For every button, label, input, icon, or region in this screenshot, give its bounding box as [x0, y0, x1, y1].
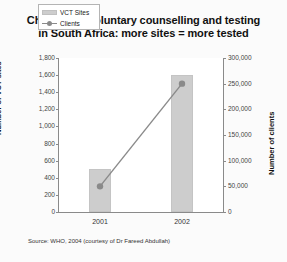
- right-tick-mark: [223, 186, 226, 187]
- left-tick-mark: [56, 144, 59, 145]
- left-tick-label: 1,600: [39, 71, 55, 78]
- bar-2002: [171, 75, 193, 212]
- left-tick-label: 800: [44, 140, 55, 147]
- clients-line-path: [100, 84, 182, 187]
- left-tick-mark: [56, 75, 59, 76]
- left-tick-mark: [56, 58, 59, 59]
- left-tick-label: 1,000: [39, 122, 55, 129]
- right-axis-title: Number of clients: [267, 112, 276, 175]
- legend-item-vct-sites: VCT Sites: [42, 7, 96, 17]
- left-tick-label: 1,200: [39, 105, 55, 112]
- left-tick-label: 600: [44, 157, 55, 164]
- left-tick-label: 200: [44, 191, 55, 198]
- right-tick-mark: [223, 58, 226, 59]
- right-tick-mark: [223, 109, 226, 110]
- left-tick-mark: [56, 109, 59, 110]
- right-tick-mark: [223, 84, 226, 85]
- left-axis-title: Number of VCT sites: [0, 61, 3, 135]
- left-tick-mark: [56, 126, 59, 127]
- chart-figure: Changes in voluntary counselling and tes…: [0, 0, 287, 262]
- line-series: [59, 58, 223, 212]
- right-tick-label: 50,000: [228, 182, 248, 189]
- right-tick-mark: [223, 161, 226, 162]
- line-swatch-icon: [42, 20, 57, 27]
- right-tick-mark: [223, 212, 226, 213]
- plot-area: 02004006008001,0001,2001,4001,6001,800 0…: [58, 58, 224, 213]
- right-tick-label: 0: [228, 208, 232, 215]
- legend-label-vct-sites: VCT Sites: [60, 9, 89, 16]
- chart-legend: VCT Sites Clients: [38, 4, 100, 30]
- right-tick-label: 150,000: [228, 131, 252, 138]
- legend-item-clients: Clients: [42, 18, 96, 28]
- left-tick-label: 1,800: [39, 54, 55, 61]
- legend-label-clients: Clients: [60, 20, 80, 27]
- bar-swatch-icon: [42, 10, 57, 15]
- left-tick-label: 1,400: [39, 88, 55, 95]
- left-tick-mark: [56, 92, 59, 93]
- source-caption: Source: WHO, 2004 (courtesy of Dr Fareed…: [28, 238, 170, 244]
- right-tick-label: 300,000: [228, 54, 252, 61]
- left-tick-mark: [56, 212, 59, 213]
- left-tick-label: 0: [51, 208, 55, 215]
- left-tick-mark: [56, 178, 59, 179]
- right-tick-label: 250,000: [228, 80, 252, 87]
- bar-2001: [89, 169, 111, 212]
- left-tick-mark: [56, 195, 59, 196]
- x-axis-label-2002: 2002: [174, 218, 190, 225]
- left-tick-mark: [56, 161, 59, 162]
- left-tick-label: 400: [44, 174, 55, 181]
- right-tick-label: 200,000: [228, 105, 252, 112]
- right-tick-label: 100,000: [228, 157, 252, 164]
- x-axis-label-2001: 2001: [92, 218, 108, 225]
- right-tick-mark: [223, 135, 226, 136]
